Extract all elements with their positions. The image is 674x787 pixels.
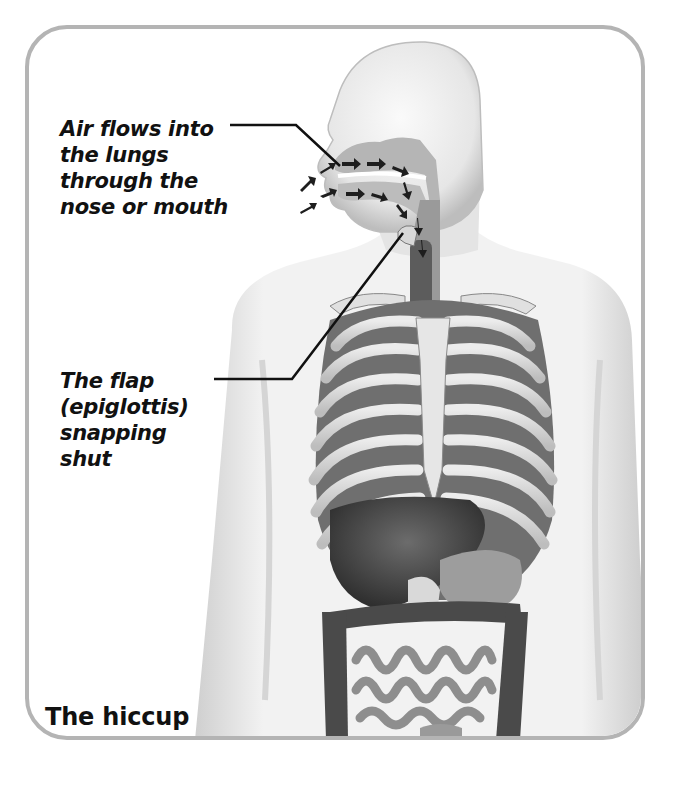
callout-line: nose or mouth — [60, 194, 228, 220]
callout-line: Air flows into — [60, 116, 228, 142]
callout-line: shut — [60, 446, 189, 472]
callout-line: The flap — [60, 368, 189, 394]
rectum — [420, 724, 462, 742]
callout-line: through the — [60, 168, 228, 194]
callout-epiglottis: The flap (epiglottis) snapping shut — [60, 368, 189, 472]
figure-caption: The hiccup — [45, 703, 189, 731]
callout-air-flow: Air flows into the lungs through the nos… — [60, 116, 228, 220]
callout-line: (epiglottis) — [60, 394, 189, 420]
callout-line: snapping — [60, 420, 189, 446]
callout-line: the lungs — [60, 142, 228, 168]
